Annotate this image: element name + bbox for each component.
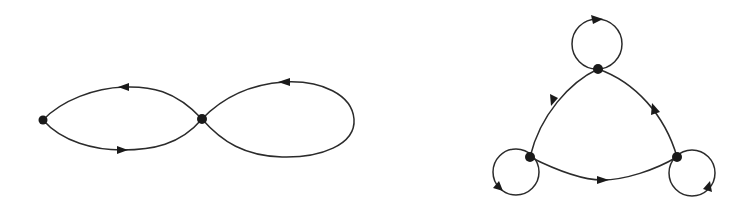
arrow-down-right-icon: [493, 181, 503, 191]
arrow-right-icon: [591, 15, 603, 24]
triangle-graph-with-loops: [493, 15, 715, 196]
edge-a-to-b-lower: [43, 119, 202, 150]
edge-r-to-t: [598, 69, 677, 157]
figure-eight-graph: [39, 78, 355, 157]
edge-b-loop: [202, 82, 354, 157]
arrow-down-left-icon: [550, 94, 558, 106]
arrow-left-icon: [118, 83, 129, 91]
node-l: [525, 152, 535, 162]
arrow-up-left-icon: [651, 103, 660, 115]
edge-t-to-l: [530, 69, 598, 157]
node-t: [593, 64, 603, 74]
arrow-up-icon: [703, 181, 712, 192]
diagram-canvas: [0, 0, 755, 210]
node-b: [197, 114, 207, 124]
arrow-right-icon: [117, 146, 128, 154]
node-r: [672, 152, 682, 162]
edge-t-loop: [572, 19, 622, 69]
node-a: [39, 116, 48, 125]
arrow-right-icon: [597, 176, 609, 184]
edge-b-to-a-upper: [43, 87, 202, 120]
edge-l-to-r: [530, 157, 677, 180]
arrow-left-icon: [278, 78, 290, 86]
graph-diagram: [0, 0, 755, 210]
